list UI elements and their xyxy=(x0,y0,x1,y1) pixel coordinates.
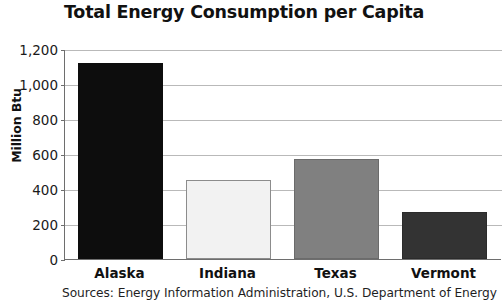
bar-texas[interactable] xyxy=(294,159,379,259)
y-tick-label: 1,200 xyxy=(2,42,58,58)
y-tick-label: 0 xyxy=(2,252,58,268)
bar-alaska[interactable] xyxy=(78,63,163,259)
y-tick-label: 1,000 xyxy=(2,77,58,93)
x-tick-label-indiana: Indiana xyxy=(185,265,270,281)
chart-title: Total Energy Consumption per Capita xyxy=(0,2,488,22)
plot-area xyxy=(64,50,501,260)
y-tick-label: 400 xyxy=(2,182,58,198)
x-tick-label-vermont: Vermont xyxy=(401,265,486,281)
x-tick-label-texas: Texas xyxy=(293,265,378,281)
y-tick-label: 200 xyxy=(2,217,58,233)
y-tick-mark xyxy=(61,260,65,261)
bar-vermont[interactable] xyxy=(402,212,487,259)
y-tick-label: 800 xyxy=(2,112,58,128)
source-note: Sources: Energy Information Administrati… xyxy=(62,286,497,300)
bars-layer xyxy=(65,49,502,259)
x-tick-label-alaska: Alaska xyxy=(77,265,162,281)
y-tick-label: 600 xyxy=(2,147,58,163)
bar-indiana[interactable] xyxy=(186,180,271,259)
